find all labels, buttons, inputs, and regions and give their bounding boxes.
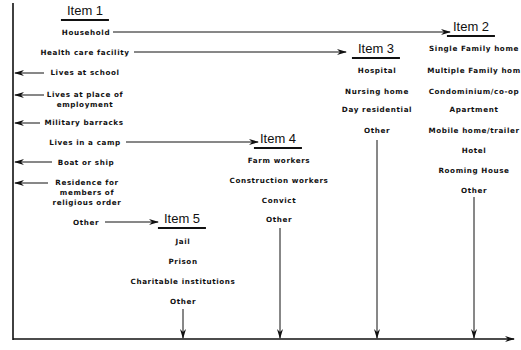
item2-option: Rooming House <box>438 166 509 176</box>
item4-option: Farm workers <box>248 156 310 166</box>
item1-option-military: Military barracks <box>44 118 123 128</box>
item4-title: Item 4 <box>254 132 302 149</box>
item2-option: Single Family home <box>429 44 519 54</box>
item2-option: Other <box>461 186 487 196</box>
item1-option-other: Other <box>73 218 99 228</box>
item1-option-religious-line3: religious order <box>53 198 122 208</box>
item2-option: Hotel <box>462 146 487 156</box>
item1-option-health-care: Health care facility <box>40 48 129 58</box>
item5-title: Item 5 <box>158 212 206 229</box>
item1-option-boat: Boat or ship <box>58 158 114 168</box>
item2-option: Condominium/co-op <box>429 87 520 97</box>
item4-option: Other <box>266 215 292 225</box>
item1-title: Item 1 <box>61 4 109 21</box>
item1-option-employment-line1: Lives at place of <box>47 90 124 100</box>
item5-option: Jail <box>176 237 191 247</box>
item1-option-religious-line1: Residence for <box>55 178 118 188</box>
item1-option-religious-line2: members of <box>60 188 114 198</box>
item2-option: Apartment <box>450 105 499 115</box>
item3-option: Hospital <box>358 66 396 76</box>
item1-option-employment-line2: employment <box>57 100 114 110</box>
item4-option: Construction workers <box>230 176 329 186</box>
item3-option: Other <box>364 126 390 136</box>
item5-option: Other <box>170 297 196 307</box>
item1-option-household: Household <box>62 28 110 38</box>
item1-option-school: Lives at school <box>50 68 119 78</box>
item2-option: Multiple Family hom <box>427 66 521 76</box>
item5-option: Prison <box>168 257 197 267</box>
item3-title: Item 3 <box>352 42 400 59</box>
item1-option-camp: Lives in a camp <box>49 138 121 148</box>
item2-option: Mobile home/trailer <box>428 126 519 136</box>
item3-option: Nursing home <box>345 87 409 97</box>
item4-option: Convict <box>262 196 296 206</box>
item2-title: Item 2 <box>447 20 495 37</box>
item5-option: Charitable institutions <box>131 277 236 287</box>
item3-option: Day residential <box>342 105 412 115</box>
